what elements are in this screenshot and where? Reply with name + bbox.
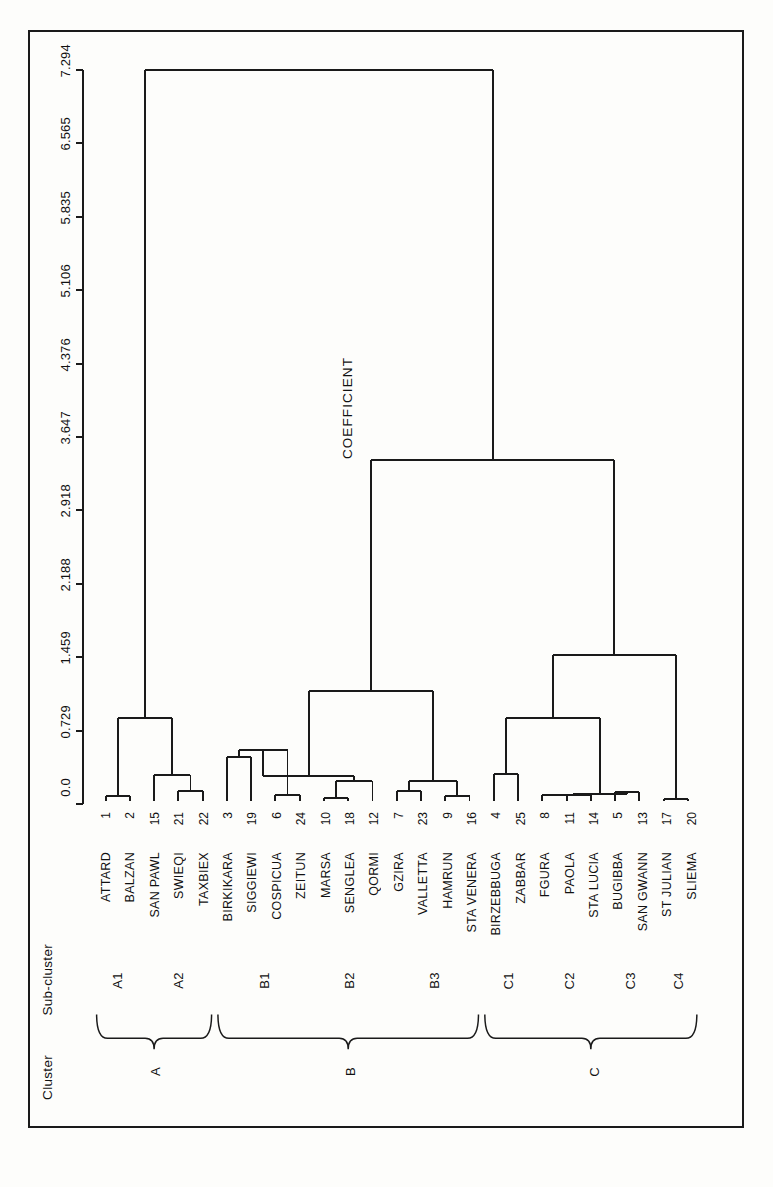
- leaf-label: BUGIBBA: [611, 852, 625, 910]
- leaf-label: SWIEQI: [172, 852, 186, 899]
- leaf-number: 19: [245, 812, 259, 825]
- leaf-number: 10: [319, 812, 333, 825]
- leaf-number: 18: [343, 812, 357, 825]
- subcluster-label: C2: [562, 972, 577, 989]
- leaf-number: 12: [367, 812, 381, 825]
- leaf-label: SLIEMA: [685, 852, 699, 900]
- leaf-number: 5: [611, 812, 625, 819]
- leaf-number: 20: [685, 812, 699, 825]
- leaf-label: ZEITUN: [294, 852, 308, 899]
- leaf-label: PAOLA: [563, 852, 577, 894]
- leaf-label: SIGGIEWI: [245, 852, 259, 913]
- leaf-number: 11: [563, 812, 577, 824]
- leaf-label: ST JULIAN: [660, 852, 674, 917]
- leaf-number: 6: [270, 812, 284, 819]
- leaf-number: 13: [636, 812, 650, 825]
- leaf-number: 16: [465, 812, 479, 825]
- leaf-label: GZIRA: [392, 852, 406, 892]
- leaf-label: SENGLEA: [343, 852, 357, 913]
- cluster-label: B: [343, 1067, 358, 1076]
- subcluster-label: C4: [671, 972, 686, 989]
- figure-border: 0.00.7291.4592.1882.9183.6474.3765.1065.…: [28, 30, 744, 1128]
- subcluster-header: Sub-cluster: [40, 944, 55, 1016]
- leaf-number: 22: [197, 812, 211, 825]
- leaf-label: FGURA: [538, 852, 552, 897]
- leaf-label: BALZAN: [123, 852, 137, 902]
- leaf-label: ATTARD: [99, 852, 113, 902]
- leaf-number: 1: [99, 812, 113, 819]
- leaf-label: HAMRUN: [441, 852, 455, 909]
- leaf-number: 17: [660, 812, 674, 825]
- leaf-number: 21: [172, 812, 186, 825]
- leaf-label: SAN PAWL: [148, 852, 162, 918]
- subcluster-label: C3: [623, 972, 638, 989]
- subcluster-label: B1: [257, 972, 272, 989]
- leaf-number: 4: [489, 812, 503, 819]
- cluster-header: Cluster: [40, 1055, 55, 1100]
- cluster-label: C: [587, 1067, 602, 1077]
- leaf-label: COSPICUA: [270, 852, 284, 920]
- leaf-number: 3: [221, 812, 235, 819]
- leaf-label: MARSA: [319, 852, 333, 898]
- leaf-label: ZABBAR: [514, 852, 528, 904]
- dendrogram-tree: [30, 32, 742, 1126]
- dendrogram-figure: 0.00.7291.4592.1882.9183.6474.3765.1065.…: [0, 0, 773, 1187]
- cluster-label: A: [148, 1067, 163, 1076]
- leaf-number: 23: [416, 812, 430, 825]
- leaf-label: BIRKIKARA: [221, 852, 235, 921]
- leaf-label: BIRZEBBUGA: [489, 852, 503, 936]
- leaf-label: VALLETTA: [416, 852, 430, 915]
- leaf-label: QORMI: [367, 852, 381, 896]
- subcluster-label: A2: [171, 972, 186, 989]
- leaf-number: 14: [587, 812, 601, 825]
- leaf-number: 8: [538, 812, 552, 819]
- leaf-label: SAN GWANN: [636, 852, 650, 931]
- leaf-number: 9: [441, 812, 455, 819]
- leaf-number: 25: [514, 812, 528, 825]
- leaf-label: STA VENERA: [465, 852, 479, 933]
- subcluster-label: C1: [501, 972, 516, 989]
- leaf-number: 15: [148, 812, 162, 825]
- leaf-number: 24: [294, 812, 308, 825]
- subcluster-label: B3: [427, 972, 442, 989]
- leaf-number: 2: [123, 812, 137, 819]
- leaf-label: TAXBIEX: [197, 852, 211, 906]
- leaf-number: 7: [392, 812, 406, 819]
- subcluster-label: B2: [342, 972, 357, 989]
- subcluster-label: A1: [110, 972, 125, 989]
- leaf-label: STA LUCIA: [587, 852, 601, 918]
